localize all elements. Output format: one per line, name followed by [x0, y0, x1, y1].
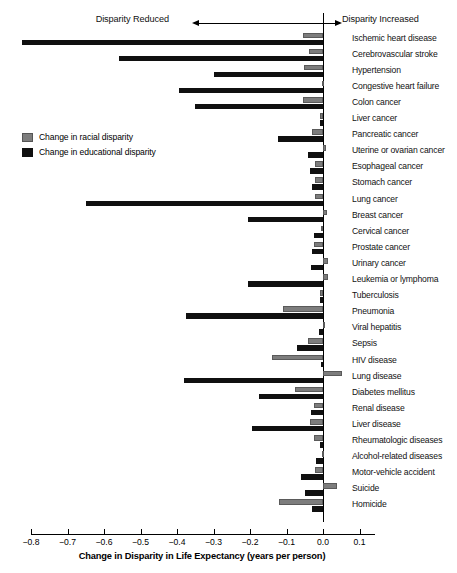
- legend-swatch-educational: [22, 148, 33, 157]
- bar-row: Prostate cancer: [0, 241, 457, 257]
- legend-label-educational: Change in educational disparity: [39, 147, 156, 157]
- bar-educational: [320, 442, 323, 448]
- bar-row: Cerebrovascular stroke: [0, 48, 457, 64]
- category-label: Sepsis: [352, 338, 377, 348]
- category-label: Cervical cancer: [352, 226, 409, 236]
- bar-row: Leukemia or lymphoma: [0, 273, 457, 289]
- bar-racial: [320, 290, 323, 296]
- axis-tick-label: −0.7: [59, 537, 76, 547]
- bar-racial: [303, 33, 323, 39]
- disparity-increased-label: Disparity Increased: [342, 14, 419, 24]
- bar-row: HIV disease: [0, 354, 457, 370]
- axis-tick: [68, 529, 69, 535]
- bar-educational: [321, 362, 323, 368]
- bar-row: Breast cancer: [0, 209, 457, 225]
- bar-row: Cervical cancer: [0, 225, 457, 241]
- bar-educational: [297, 345, 323, 351]
- bar-educational: [310, 168, 323, 174]
- category-label: Motor-vehicle accident: [352, 467, 435, 477]
- category-label: Alcohol-related diseases: [352, 451, 442, 461]
- category-label: Suicide: [352, 483, 379, 493]
- bar-educational: [186, 313, 323, 319]
- axis-tick: [287, 529, 288, 535]
- category-label: Pancreatic cancer: [352, 129, 418, 139]
- category-label: Liver cancer: [352, 113, 397, 123]
- bar-row: Urinary cancer: [0, 257, 457, 273]
- category-label: Diabetes mellitus: [352, 387, 415, 397]
- axis-tick: [104, 529, 105, 535]
- category-label: Hypertension: [352, 65, 401, 75]
- bar-row: Congestive heart failure: [0, 80, 457, 96]
- category-label: Esophageal cancer: [352, 161, 423, 171]
- axis-tick-label: −0.8: [23, 537, 40, 547]
- category-label: Viral hepatitis: [352, 322, 401, 332]
- axis-tick-label: −0.2: [242, 537, 259, 547]
- plot-area: Ischemic heart diseaseCerebrovascular st…: [0, 31, 457, 522]
- bar-racial: [279, 499, 323, 505]
- category-label: HIV disease: [352, 355, 397, 365]
- bar-racial: [315, 161, 323, 167]
- bar-educational: [314, 233, 323, 239]
- category-label: Renal disease: [352, 403, 405, 413]
- bar-row: Viral hepatitis: [0, 321, 457, 337]
- bar-row: Suicide: [0, 482, 457, 498]
- category-label: Tuberculosis: [352, 290, 399, 300]
- bar-educational: [184, 378, 323, 384]
- axis-title: Change in Disparity in Life Expectancy (…: [0, 551, 404, 561]
- bar-racial: [315, 177, 323, 183]
- bar-racial: [323, 210, 327, 216]
- category-label: Rheumatologic diseases: [352, 435, 442, 445]
- bar-row: Ischemic heart disease: [0, 32, 457, 48]
- bar-racial: [272, 355, 323, 361]
- category-label: Lung cancer: [352, 194, 398, 204]
- axis-tick-label: −0.6: [96, 537, 113, 547]
- bar-row: Esophageal cancer: [0, 160, 457, 176]
- arrow-left-line: [198, 23, 323, 24]
- legend-label-racial: Change in racial disparity: [39, 132, 133, 142]
- arrow-right-icon: [335, 20, 342, 26]
- axis-tick: [177, 529, 178, 535]
- bar-racial: [314, 403, 323, 409]
- axis-tick: [141, 529, 142, 535]
- bar-row: Liver disease: [0, 418, 457, 434]
- bar-educational: [179, 88, 323, 94]
- bar-racial: [283, 306, 323, 312]
- bar-educational: [301, 474, 323, 480]
- bar-row: Motor-vehicle accident: [0, 466, 457, 482]
- bar-row: Lung disease: [0, 370, 457, 386]
- axis-tick-label: 0.0: [317, 537, 329, 547]
- bar-educational: [86, 201, 323, 207]
- bar-racial: [322, 81, 324, 87]
- axis-tick: [360, 529, 361, 535]
- bar-racial: [309, 49, 323, 55]
- bar-educational: [312, 249, 323, 255]
- bar-row: Rheumatologic diseases: [0, 434, 457, 450]
- bar-educational: [195, 104, 323, 110]
- category-label: Prostate cancer: [352, 242, 410, 252]
- category-label: Lung disease: [352, 371, 401, 381]
- axis-tick: [250, 529, 251, 535]
- bar-row: Lung cancer: [0, 193, 457, 209]
- bar-racial: [308, 338, 323, 344]
- x-axis: −0.8−0.7−0.6−0.5−0.4−0.3−0.2−0.10.00.1 C…: [0, 529, 457, 573]
- axis-tick: [31, 529, 32, 535]
- bar-racial: [323, 322, 325, 328]
- category-label: Stomach cancer: [352, 177, 412, 187]
- category-label: Leukemia or lymphoma: [352, 274, 438, 284]
- bar-row: Sepsis: [0, 337, 457, 353]
- bar-racial: [323, 483, 337, 489]
- axis-tick: [323, 529, 324, 535]
- axis-tick-label: −0.5: [132, 537, 149, 547]
- bar-educational: [252, 426, 323, 432]
- bar-educational: [248, 217, 323, 223]
- bar-row: Liver cancer: [0, 112, 457, 128]
- bar-row: Stomach cancer: [0, 176, 457, 192]
- bar-racial: [312, 129, 323, 135]
- category-label: Homicide: [352, 499, 387, 509]
- bar-racial: [320, 113, 323, 119]
- bar-row: Diabetes mellitus: [0, 386, 457, 402]
- bar-row: Colon cancer: [0, 96, 457, 112]
- bar-racial: [314, 435, 323, 441]
- bar-educational: [320, 120, 323, 126]
- category-label: Uterine or ovarian cancer: [352, 145, 445, 155]
